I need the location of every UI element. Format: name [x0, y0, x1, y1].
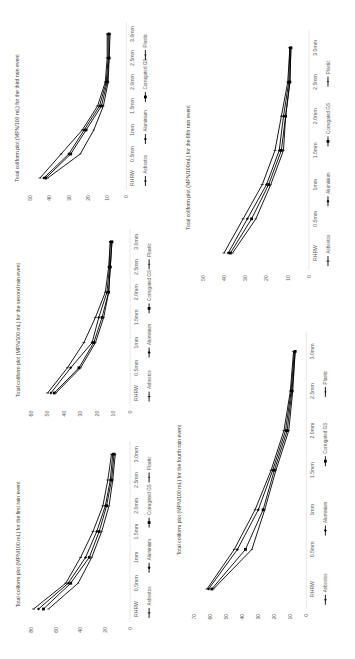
y-tick-label: 80 — [28, 627, 34, 633]
y-tick-label: 60 — [28, 410, 34, 416]
y-tick-label: 10 — [285, 275, 291, 281]
x-tick-label: 2.0mm — [309, 423, 315, 439]
series-plastic — [231, 48, 292, 253]
legend-item: Aluminium — [143, 110, 148, 144]
legend-item: Asbestos — [147, 586, 152, 618]
square-marker — [244, 548, 247, 551]
square-marker — [69, 582, 72, 585]
x-tick-label: 0.5mm — [133, 575, 139, 591]
y-tick-label: 10 — [287, 614, 293, 620]
x-tick-label: 3.0mm — [133, 234, 139, 250]
legend-item: Plastic — [147, 456, 152, 483]
chart-second-rain-event: Total coliform plot (MPN/100 mL) for the… — [8, 225, 173, 435]
x-tick-label: 2.5mm — [133, 472, 139, 488]
legend-item: Aluminium — [323, 501, 328, 535]
diamond-marker — [148, 566, 151, 569]
series-line — [213, 351, 295, 589]
y-tick-label: 40 — [77, 627, 83, 633]
legend-label: Corrugated GS — [326, 103, 331, 134]
chart-third-rain-event: Total coliform plot (MPN/100 mL) for the… — [8, 18, 168, 218]
x-tick-label: 2.5mm — [133, 259, 139, 275]
legend-label: Corrugated GS — [323, 423, 328, 454]
x-tick-label: 0.5mm — [312, 211, 318, 227]
chart-first-rain-event: Total coliform plot (MPN/100 mL) for the… — [8, 437, 173, 652]
x-tick-label: 1.5mm — [309, 462, 315, 478]
series-corrugated-gs — [210, 350, 296, 590]
x-tick-label: 2.0mm — [133, 498, 139, 514]
x-tick-label: RHRW — [129, 170, 135, 186]
chart-svg: Total coliform plot (MPN/100 mL) for the… — [8, 225, 173, 435]
legend-item: Corrugated GS — [147, 484, 152, 527]
x-tick-label: 1mm — [312, 179, 318, 191]
x-tick-label: RHRW — [133, 601, 139, 617]
legend-item: Aluminium — [147, 323, 152, 357]
y-tick-label: 0 — [123, 195, 129, 198]
y-tick-label: 20 — [85, 195, 91, 201]
chart-svg: Total coliform plot (MPN/100 mL) for the… — [168, 325, 355, 655]
diamond-marker — [97, 316, 100, 319]
x-tick-label: 1mm — [133, 552, 139, 564]
legend-label: Aluminium — [147, 323, 152, 345]
series-plastic — [55, 242, 114, 393]
legend-item: Corrugated GS — [323, 423, 328, 466]
chart-title: Total coliform plot (MPN/100 mL) for the… — [15, 262, 21, 397]
y-tick-label: 20 — [263, 275, 269, 281]
series-asbestos — [206, 351, 295, 589]
square-marker — [250, 217, 253, 220]
legend-label: Plastic — [326, 60, 331, 74]
legend-label: Plastic — [323, 370, 328, 384]
square-marker — [148, 521, 151, 524]
chart-svg: Total coliform plot (MPN/100mL) for the … — [178, 25, 355, 310]
x-tick-label: 0.5mm — [129, 146, 135, 162]
chart-title: Total coliform plot (MPN/100 mL) for the… — [14, 54, 20, 182]
y-tick-label: 10 — [110, 410, 116, 416]
x-tick-label: 3.0mm — [309, 343, 315, 359]
legend: AsbestosAluminiumCorrugated GSPlastic — [143, 33, 148, 186]
legend-item: Corrugated GS — [147, 270, 152, 313]
legend-item: Corrugated GS — [143, 59, 148, 102]
square-marker — [85, 129, 88, 132]
diamond-marker — [144, 138, 147, 141]
legend-label: Asbestos — [143, 154, 148, 174]
square-marker — [324, 460, 327, 463]
x-tick-label: 1.5mm — [312, 142, 318, 158]
square-marker — [98, 530, 101, 533]
chart-title: Total coliform plot (MPN/100 mL) for the… — [15, 481, 21, 607]
legend-label: Asbestos — [147, 370, 152, 390]
x-tick-label: RHRW — [309, 581, 315, 597]
series-aluminium — [207, 350, 296, 591]
legend-label: Aluminium — [143, 110, 148, 132]
legend: AsbestosAluminiumCorrugated GSPlastic — [323, 370, 328, 605]
y-tick-label: 60 — [53, 627, 59, 633]
legend-label: Plastic — [143, 33, 148, 47]
x-tick-label: 1.5mm — [133, 524, 139, 540]
y-tick-label: 30 — [66, 195, 72, 201]
series-corrugated-gs — [44, 33, 110, 180]
y-tick-label: 20 — [102, 627, 108, 633]
x-tick-label: 0.5mm — [133, 360, 139, 376]
legend-label: Corrugated GS — [143, 59, 148, 90]
y-tick-label: 0 — [127, 627, 133, 630]
diamond-marker — [324, 529, 327, 532]
legend: AsbestosAluminiumCorrugated GSPlastic — [326, 60, 331, 266]
y-tick-label: 40 — [46, 195, 52, 201]
square-marker — [42, 608, 45, 611]
square-marker — [148, 307, 151, 310]
y-tick-label: 40 — [221, 275, 227, 281]
legend: AsbestosAluminiumCorrugated GSPlastic — [147, 243, 152, 402]
y-tick-label: 50 — [200, 275, 206, 281]
y-tick-label: 20 — [94, 410, 100, 416]
x-tick-label: 2.0mm — [129, 74, 135, 90]
x-tick-label: 1mm — [129, 124, 135, 136]
y-tick-label: 40 — [239, 614, 245, 620]
y-tick-label: 50 — [44, 410, 50, 416]
x-tick-label: 3.0mm — [312, 40, 318, 56]
chart-svg: Total coliform plot (MPN/100 mL) for the… — [8, 437, 173, 652]
x-tick-label: 3.0mm — [133, 446, 139, 462]
series-plastic — [212, 351, 296, 589]
y-tick-label: 60 — [207, 614, 213, 620]
legend-item: Aluminium — [326, 172, 331, 206]
x-tick-label: 1.5mm — [129, 98, 135, 114]
legend-item: Asbestos — [323, 573, 328, 605]
legend: AsbestosAluminiumCorrugated GSPlastic — [147, 456, 152, 618]
